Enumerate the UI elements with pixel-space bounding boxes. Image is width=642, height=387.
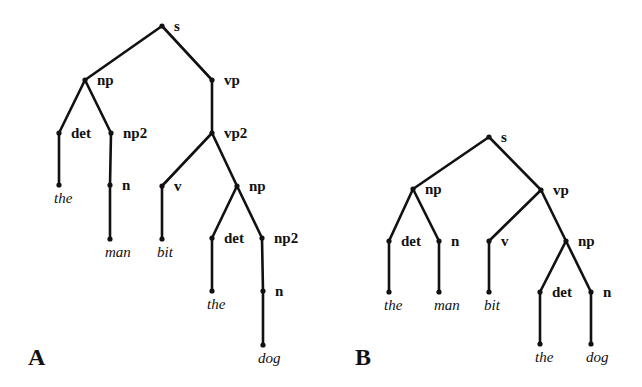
category-label: det — [401, 234, 421, 249]
tree-edge — [162, 133, 212, 186]
leaf-word: bit — [157, 245, 173, 260]
tree-node-dot — [260, 342, 265, 347]
tree-node-dot — [563, 238, 568, 243]
tree-node-dot — [486, 134, 491, 139]
category-label: np — [578, 234, 595, 249]
tree-node-dot — [56, 130, 61, 135]
category-label: np — [249, 179, 266, 194]
leaf-word: man — [434, 298, 460, 313]
tree-node-dot — [159, 183, 164, 188]
leaf-word: the — [207, 297, 225, 312]
panel-label-a: A — [28, 345, 45, 369]
tree-node-dot — [436, 289, 441, 294]
tree-node-dot — [537, 341, 542, 346]
tree-node-dot — [588, 341, 593, 346]
leaf-word: bit — [484, 298, 500, 313]
tree-node-dot — [234, 183, 239, 188]
tree-node-dot — [159, 23, 164, 28]
tree-edge — [489, 137, 541, 190]
tree-node-dot — [209, 77, 214, 82]
tree-edge — [489, 190, 541, 241]
category-label: n — [275, 284, 283, 299]
tree-node-dot — [538, 187, 543, 192]
tree-node-dot — [107, 236, 112, 241]
tree-node-dot — [108, 130, 113, 135]
tree-edges — [0, 0, 642, 387]
category-label: np2 — [123, 126, 147, 141]
category-label: v — [501, 234, 509, 249]
parse-tree-figure: A snpvpdetnp2vp2thenvnpmanbitdetnp2thend… — [0, 0, 642, 387]
tree-node-dot — [486, 238, 491, 243]
leaf-word: dog — [586, 350, 609, 365]
category-label: n — [603, 285, 611, 300]
tree-node-dot — [82, 77, 87, 82]
category-label: n — [122, 178, 130, 193]
category-label: v — [174, 179, 182, 194]
category-label: det — [71, 126, 91, 141]
category-label: np — [97, 73, 114, 88]
tree-edge — [162, 26, 212, 80]
tree-node-dot — [209, 235, 214, 240]
leaf-word: the — [54, 191, 72, 206]
leaf-word: the — [384, 298, 402, 313]
category-label: vp — [224, 73, 240, 88]
category-label: det — [552, 285, 572, 300]
panel-label-b: B — [355, 345, 371, 369]
tree-node-dot — [486, 289, 491, 294]
tree-node-dot — [410, 186, 415, 191]
category-label: np2 — [274, 231, 298, 246]
category-label: s — [174, 19, 180, 34]
tree-edge — [262, 238, 263, 291]
leaf-word: dog — [258, 351, 281, 366]
tree-node-dot — [386, 289, 391, 294]
category-label: vp2 — [224, 126, 247, 141]
tree-node-dot — [159, 236, 164, 241]
tree-node-dot — [56, 182, 61, 187]
tree-edge — [110, 133, 111, 185]
category-label: np — [425, 182, 442, 197]
tree-node-dot — [107, 182, 112, 187]
tree-node-dot — [537, 289, 542, 294]
category-label: s — [501, 130, 507, 145]
tree-node-dot — [588, 289, 593, 294]
tree-node-dot — [259, 235, 264, 240]
tree-node-dot — [436, 238, 441, 243]
category-label: vp — [553, 183, 569, 198]
tree-node-dot — [209, 130, 214, 135]
leaf-word: the — [535, 350, 553, 365]
tree-node-dot — [260, 288, 265, 293]
category-label: det — [224, 231, 244, 246]
tree-node-dot — [386, 238, 391, 243]
category-label: n — [451, 234, 459, 249]
leaf-word: man — [105, 245, 131, 260]
tree-node-dot — [209, 288, 214, 293]
